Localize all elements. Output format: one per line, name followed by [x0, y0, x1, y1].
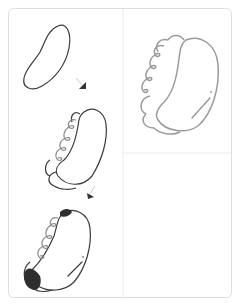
drawing-tutorial-sheet [0, 0, 235, 305]
